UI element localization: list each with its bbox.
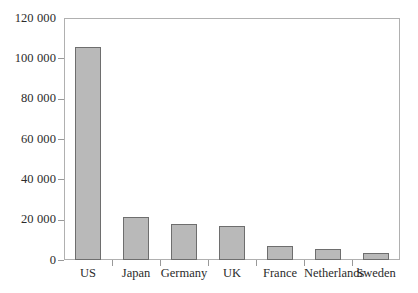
y-tick-mark [58, 58, 64, 59]
y-tick-label: 100 000 [0, 52, 56, 65]
x-tick-label: UK [208, 266, 256, 280]
bar [219, 226, 245, 260]
y-axis: 020 00040 00060 00080 000100 000120 000 [0, 0, 56, 293]
y-tick-label: 60 000 [0, 133, 56, 146]
x-tick-mark [352, 260, 353, 266]
y-tick-label: 40 000 [0, 173, 56, 186]
bar [363, 253, 389, 260]
bar-chart: 020 00040 00060 00080 000100 000120 000 … [0, 0, 418, 293]
x-tick-label: Sweden [352, 266, 400, 280]
bar [267, 246, 293, 260]
x-tick-label: France [256, 266, 304, 280]
x-tick-mark [160, 260, 161, 266]
bar [315, 249, 341, 260]
y-tick-mark [58, 139, 64, 140]
bar [171, 224, 197, 260]
y-tick-mark [58, 260, 64, 261]
x-tick-label: Netherlands [304, 266, 352, 280]
bar [123, 217, 149, 260]
x-tick-mark [208, 260, 209, 266]
x-tick-mark [304, 260, 305, 266]
y-tick-mark [58, 99, 64, 100]
x-tick-label: US [64, 266, 112, 280]
x-tick-mark [256, 260, 257, 266]
y-tick-mark [58, 179, 64, 180]
y-tick-label: 0 [0, 254, 56, 267]
y-tick-mark [58, 220, 64, 221]
y-tick-label: 120 000 [0, 12, 56, 25]
x-tick-label: Japan [112, 266, 160, 280]
bars-layer [64, 18, 400, 260]
bar [75, 47, 101, 260]
x-axis: USJapanGermanyUKFranceNetherlandsSweden [0, 266, 418, 288]
x-tick-mark [112, 260, 113, 266]
y-tick-label: 80 000 [0, 92, 56, 105]
x-tick-label: Germany [160, 266, 208, 280]
y-tick-label: 20 000 [0, 213, 56, 226]
